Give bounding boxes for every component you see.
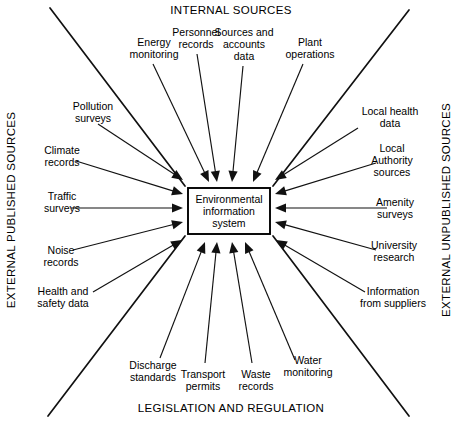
source-label-line: Health and: [38, 285, 89, 297]
arrow-head-9: [197, 242, 206, 254]
center-node[interactable]: Environmentalinformationsystem: [188, 188, 270, 234]
arrow-head-15: [275, 203, 286, 212]
source-label-line: Local: [379, 142, 404, 154]
connector-line-1: [197, 54, 216, 173]
source-label-external_unpublished-13: Local healthdata: [362, 105, 419, 129]
source-label-line: records: [43, 256, 78, 268]
source-label-line: standards: [130, 371, 176, 383]
connector-line-8: [93, 245, 174, 292]
source-label-line: Noise: [48, 244, 75, 256]
source-label-line: Personnel: [172, 26, 219, 38]
source-label-line: records: [178, 38, 213, 50]
center-box-label-line: Environmental: [195, 193, 262, 205]
connector-line-2: [233, 66, 243, 173]
source-label-line: from suppliers: [360, 297, 426, 309]
source-label-external_published-4: Pollutionsurveys: [73, 100, 113, 124]
source-label-line: Information: [367, 285, 420, 297]
arrow-head-1: [211, 170, 220, 182]
source-label-internal-1: Personnelrecords: [172, 26, 219, 50]
arrow-head-10: [211, 242, 220, 253]
connector-line-7: [73, 224, 174, 250]
quadrant-title-right: EXTERNAL UNPUBLISHED SOURCES: [440, 103, 452, 317]
arrow-head-7: [171, 220, 183, 229]
source-label-line: operations: [285, 48, 334, 60]
source-label-legislation-12: Watermonitoring: [283, 354, 332, 378]
divider-bottom-right: [273, 236, 409, 416]
connector-line-14: [284, 163, 376, 191]
source-label-line: safety data: [37, 297, 89, 309]
source-label-line: sources: [374, 166, 411, 178]
source-label-internal-2: Sources andaccountsdata: [215, 26, 274, 62]
arrow-head-3: [253, 170, 262, 182]
connector-line-5: [76, 161, 174, 191]
source-label-line: Energy: [137, 36, 171, 48]
source-label-external_unpublished-16: Universityresearch: [371, 239, 418, 263]
arrow-head-6: [172, 203, 183, 212]
quadrant-title-bottom: LEGISLATION AND REGULATION: [138, 402, 324, 414]
source-label-internal-3: Plantoperations: [285, 36, 334, 60]
arrow-head-16: [275, 221, 287, 230]
source-label-line: Sources and: [215, 26, 274, 38]
source-label-external_unpublished-15: Amenitysurveys: [376, 196, 415, 220]
source-label-line: surveys: [44, 202, 80, 214]
source-label-line: Transport: [181, 368, 226, 380]
quadrant-title-left: EXTERNAL PUBLISHED SOURCES: [5, 112, 17, 309]
source-label-line: Discharge: [129, 359, 176, 371]
source-label-line: Waste: [241, 368, 271, 380]
arrow-head-2: [228, 171, 237, 182]
connector-line-10: [205, 251, 216, 363]
source-label-line: monitoring: [129, 48, 178, 60]
quadrant-title-top: INTERNAL SOURCES: [170, 4, 291, 16]
source-label-line: Amenity: [376, 196, 415, 208]
source-label-line: University: [371, 239, 418, 251]
connector-line-9: [160, 250, 202, 358]
source-label-internal-0: Energymonitoring: [129, 36, 178, 60]
source-label-line: monitoring: [283, 366, 332, 378]
source-label-line: Authority: [371, 154, 413, 166]
source-label-line: accounts: [223, 38, 265, 50]
source-label-external_unpublished-14: LocalAuthoritysources: [371, 142, 413, 178]
source-label-line: surveys: [377, 208, 413, 220]
source-label-legislation-11: Wasterecords: [238, 368, 273, 392]
source-label-line: Water: [294, 354, 322, 366]
environmental-information-system-diagram: Environmentalinformationsystem Energymon…: [0, 0, 463, 433]
connector-line-0: [153, 64, 205, 174]
arrow-head-11: [229, 242, 238, 254]
source-label-line: research: [374, 251, 415, 263]
source-label-line: records: [238, 380, 273, 392]
source-label-line: Climate: [44, 144, 80, 156]
source-label-line: Local health: [362, 105, 419, 117]
connector-line-17: [284, 245, 365, 292]
source-label-line: data: [234, 50, 255, 62]
source-label-external_published-5: Climaterecords: [44, 144, 80, 168]
arrow-head-14: [275, 186, 287, 195]
source-label-legislation-10: Transportpermits: [181, 368, 226, 392]
source-label-external_published-8: Health andsafety data: [37, 285, 89, 309]
source-label-external_published-7: Noiserecords: [43, 244, 78, 268]
source-label-line: permits: [186, 380, 220, 392]
connector-line-11: [233, 251, 252, 363]
center-box-label-line: information: [203, 205, 255, 217]
connector-line-16: [284, 224, 376, 250]
source-label-external_unpublished-17: Informationfrom suppliers: [360, 285, 426, 309]
source-label-line: Pollution: [73, 100, 113, 112]
source-label-line: records: [44, 156, 79, 168]
arrow-head-12: [245, 242, 254, 254]
source-label-line: data: [380, 117, 401, 129]
arrow-head-5: [171, 186, 183, 195]
connector-line-12: [249, 250, 295, 360]
source-label-line: Plant: [298, 36, 322, 48]
center-box-label-line: system: [212, 217, 246, 229]
source-label-legislation-9: Dischargestandards: [129, 359, 176, 383]
connector-line-13: [283, 128, 358, 175]
source-label-line: Traffic: [48, 190, 77, 202]
connector-line-4: [98, 124, 175, 175]
source-label-external_published-6: Trafficsurveys: [44, 190, 80, 214]
diagram-canvas: Environmentalinformationsystem Energymon…: [0, 0, 463, 433]
source-label-line: surveys: [75, 112, 111, 124]
